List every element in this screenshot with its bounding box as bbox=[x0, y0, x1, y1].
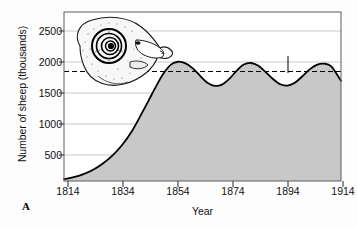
ram-eye bbox=[135, 41, 140, 44]
y-axis-ticks bbox=[59, 31, 64, 155]
plot-canvas bbox=[0, 0, 357, 227]
figure-panel: Number of sheep (thousands) 2500 2000 15… bbox=[0, 0, 357, 227]
ram-horn-spiral bbox=[92, 29, 126, 63]
x-axis-ticks bbox=[68, 181, 343, 187]
